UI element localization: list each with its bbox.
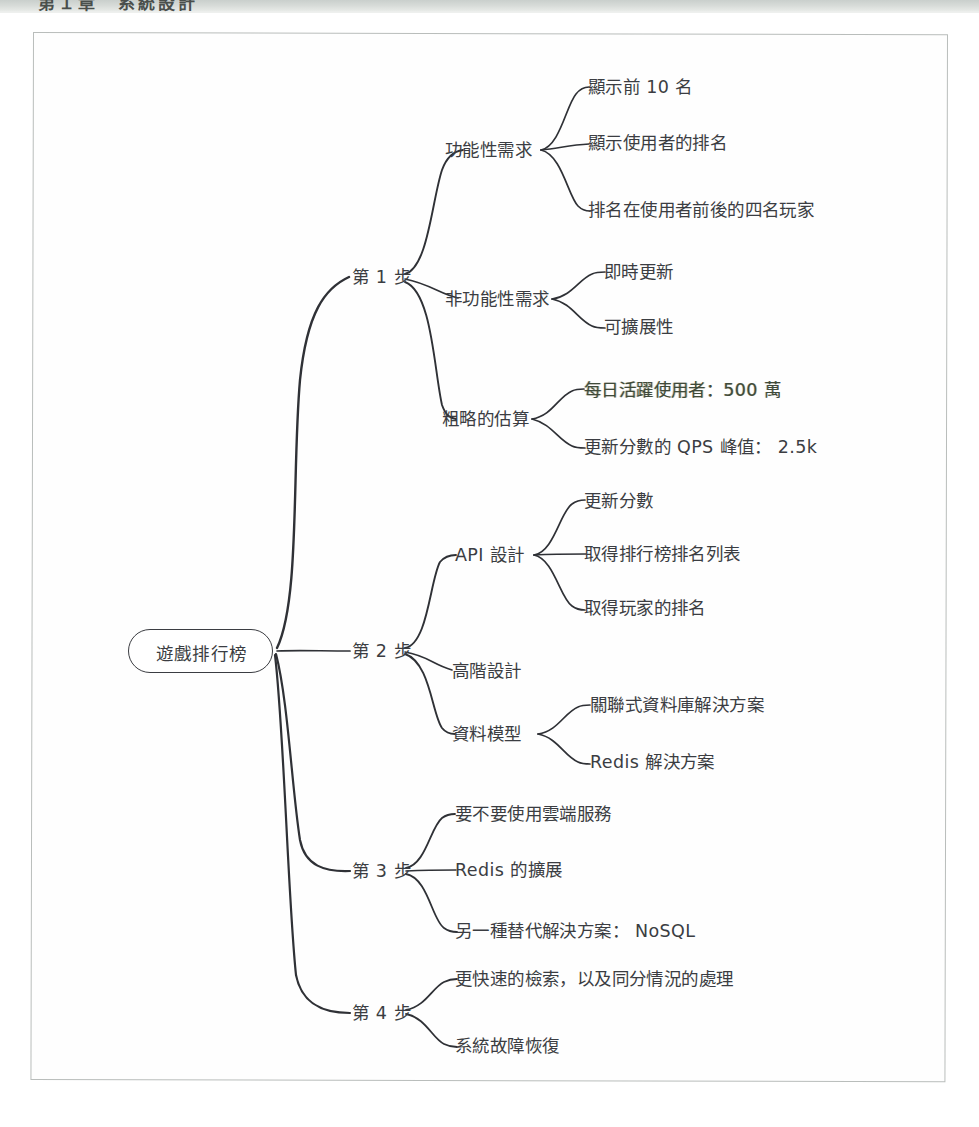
mindmap-leaf-use-cloud-service[interactable]: 要不要使用雲端服務	[455, 806, 612, 824]
mindmap-leaf-update-score[interactable]: 更新分數	[584, 493, 654, 511]
mindmap-node-nonfunctional-requirements[interactable]: 非功能性需求	[445, 291, 549, 309]
mindmap-leaf-get-player-rank[interactable]: 取得玩家的排名	[584, 600, 706, 618]
mindmap-node-step-1[interactable]: 第 1 步	[352, 269, 411, 287]
mindmap-leaf-show-user-rank[interactable]: 顯示使用者的排名	[588, 135, 727, 153]
mindmap-node-functional-requirements[interactable]: 功能性需求	[445, 142, 532, 160]
mindmap-leaf-system-failure-recovery[interactable]: 系統故障恢復	[455, 1038, 559, 1056]
mindmap-leaf-scalability[interactable]: 可擴展性	[604, 319, 674, 337]
mindmap-root-label: 遊戲排行榜	[129, 630, 274, 674]
mindmap-node-high-level-design[interactable]: 高階設計	[452, 663, 522, 681]
mindmap-node-data-model[interactable]: 資料模型	[452, 726, 522, 744]
mindmap-root-node[interactable]: 遊戲排行榜	[128, 629, 273, 673]
mindmap-leaf-faster-retrieval-ties[interactable]: 更快速的檢索，以及同分情況的處理	[455, 971, 733, 989]
mindmap-node-step-2[interactable]: 第 2 步	[352, 643, 411, 661]
mindmap-leaf-daily-active-users[interactable]: 每日活躍使用者：500 萬	[584, 382, 781, 400]
mindmap-node-rough-estimation[interactable]: 粗略的估算	[442, 411, 529, 429]
mindmap-node-step-4[interactable]: 第 4 步	[352, 1005, 411, 1023]
mindmap-leaf-get-leaderboard-list[interactable]: 取得排行榜排名列表	[584, 546, 741, 564]
mindmap-leaf-redis-scaling[interactable]: Redis 的擴展	[455, 862, 562, 880]
mindmap-leaf-show-top-10[interactable]: 顯示前 10 名	[588, 79, 693, 97]
mindmap-leaf-realtime-update[interactable]: 即時更新	[604, 264, 674, 282]
mindmap-leaf-qps-peak[interactable]: 更新分數的 QPS 峰值： 2.5k	[584, 439, 817, 457]
header-band-edge	[0, 12, 979, 13]
mindmap-leaf-redis-solution[interactable]: Redis 解決方案	[590, 754, 715, 772]
mindmap-leaf-neighbor-four-players[interactable]: 排名在使用者前後的四名玩家	[588, 202, 814, 220]
scanned-header-band: 第１章 系統設計	[0, 0, 979, 13]
mindmap-leaf-alternative-nosql[interactable]: 另一種替代解決方案： NoSQL	[455, 923, 695, 941]
mindmap-leaf-relational-db-solution[interactable]: 關聯式資料庫解決方案	[590, 697, 764, 715]
mindmap-node-step-3[interactable]: 第 3 步	[352, 863, 411, 881]
mindmap-node-api-design[interactable]: API 設計	[455, 547, 525, 565]
